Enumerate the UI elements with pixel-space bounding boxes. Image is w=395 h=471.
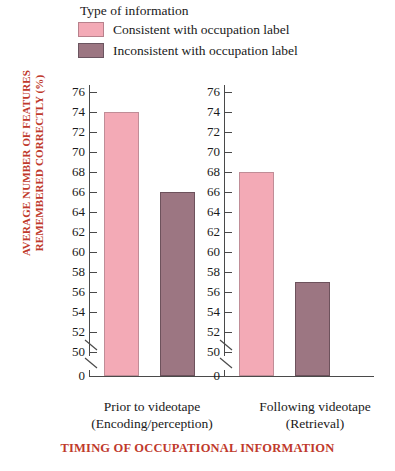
y-tick-label-wrap-54: 54 bbox=[89, 312, 90, 313]
y-tick-60 bbox=[225, 252, 232, 253]
bar-inconsistent-group-1 bbox=[295, 282, 330, 376]
y-tick-label-wrap-74: 74 bbox=[224, 112, 225, 113]
y-tick-76 bbox=[90, 92, 97, 93]
y-tick-66 bbox=[90, 192, 97, 193]
y-tick-label-66: 66 bbox=[72, 184, 85, 199]
axis-break-icon bbox=[82, 336, 100, 372]
x-group-label-prior: Prior to videotape (Encoding/perception) bbox=[72, 398, 232, 432]
y-tick-label-54: 54 bbox=[207, 304, 220, 319]
y-axis-title-line2: REMEMBERED CORRECTLY (%) bbox=[33, 38, 46, 288]
y-axis-line bbox=[224, 85, 225, 356]
y-tick-label-wrap-62: 62 bbox=[224, 232, 225, 233]
y-tick-label-wrap-62: 62 bbox=[89, 232, 90, 233]
legend-label-consistent: Consistent with occupation label bbox=[113, 22, 290, 37]
legend-label-inconsistent: Inconsistent with occupation label bbox=[113, 43, 298, 58]
x-group-label-prior-line2: (Encoding/perception) bbox=[72, 415, 232, 432]
y-tick-label-wrap-60: 60 bbox=[89, 252, 90, 253]
legend-item-consistent: Consistent with occupation label bbox=[78, 19, 368, 40]
y-tick-label-wrap-60: 60 bbox=[224, 252, 225, 253]
y-tick-label-70: 70 bbox=[207, 144, 220, 159]
y-tick-label-wrap-76: 76 bbox=[89, 92, 90, 93]
y-tick-label-72: 72 bbox=[72, 124, 85, 139]
y-zero-label-wrap: 0 bbox=[224, 376, 225, 377]
bar-consistent-group-1 bbox=[239, 172, 274, 376]
y-tick-label-54: 54 bbox=[72, 304, 85, 319]
y-tick-74 bbox=[90, 112, 97, 113]
y-tick-label-64: 64 bbox=[72, 204, 85, 219]
y-tick-label-wrap-76: 76 bbox=[224, 92, 225, 93]
y-tick-56 bbox=[90, 292, 97, 293]
y-tick-52 bbox=[90, 332, 97, 333]
chart-panel-following: 76747270686664626058565452500 bbox=[181, 78, 331, 388]
y-tick-label-wrap-66: 66 bbox=[89, 192, 90, 193]
y-tick-label-60: 60 bbox=[207, 244, 220, 259]
y-tick-label-74: 74 bbox=[72, 104, 85, 119]
y-axis-title: AVERAGE NUMBER OF FEATURES REMEMBERED CO… bbox=[20, 38, 46, 288]
y-tick-label-wrap-58: 58 bbox=[224, 272, 225, 273]
y-tick-label-wrap-66: 66 bbox=[224, 192, 225, 193]
y-tick-58 bbox=[90, 272, 97, 273]
y-tick-label-wrap-64: 64 bbox=[224, 212, 225, 213]
y-tick-label-76: 76 bbox=[72, 84, 85, 99]
y-tick-label-wrap-56: 56 bbox=[89, 292, 90, 293]
y-tick-label-wrap-56: 56 bbox=[224, 292, 225, 293]
y-axis-title-line1: AVERAGE NUMBER OF FEATURES bbox=[20, 38, 33, 288]
y-tick-label-wrap-68: 68 bbox=[89, 172, 90, 173]
x-group-label-prior-line1: Prior to videotape bbox=[72, 398, 232, 415]
y-tick-62 bbox=[225, 232, 232, 233]
y-tick-label-60: 60 bbox=[72, 244, 85, 259]
x-group-label-following-line1: Following videotape bbox=[235, 398, 395, 415]
y-tick-label-wrap-72: 72 bbox=[224, 132, 225, 133]
legend-title: Type of information bbox=[80, 2, 368, 19]
y-tick-62 bbox=[90, 232, 97, 233]
y-tick-label-wrap-68: 68 bbox=[224, 172, 225, 173]
y-tick-56 bbox=[225, 292, 232, 293]
y-tick-68 bbox=[90, 172, 97, 173]
y-tick-54 bbox=[225, 312, 232, 313]
y-tick-label-wrap-64: 64 bbox=[89, 212, 90, 213]
y-tick-label-wrap-70: 70 bbox=[224, 152, 225, 153]
legend-swatch-consistent-icon bbox=[78, 22, 104, 37]
y-tick-label-wrap-58: 58 bbox=[89, 272, 90, 273]
y-tick-76 bbox=[225, 92, 232, 93]
y-tick-label-64: 64 bbox=[207, 204, 220, 219]
y-tick-label-68: 68 bbox=[207, 164, 220, 179]
legend: Type of information Consistent with occu… bbox=[78, 2, 368, 61]
x-group-label-following-line2: (Retrieval) bbox=[235, 415, 395, 432]
x-axis-baseline bbox=[224, 376, 374, 377]
y-tick-52 bbox=[225, 332, 232, 333]
y-tick-label-62: 62 bbox=[72, 224, 85, 239]
y-tick-label-56: 56 bbox=[207, 284, 220, 299]
y-tick-label-wrap-52: 52 bbox=[89, 332, 90, 333]
y-tick-54 bbox=[90, 312, 97, 313]
axis-break-icon bbox=[217, 336, 235, 372]
y-zero-label-wrap: 0 bbox=[89, 376, 90, 377]
y-tick-72 bbox=[225, 132, 232, 133]
y-tick-label-58: 58 bbox=[207, 264, 220, 279]
bar-consistent-group-0 bbox=[104, 112, 139, 376]
y-tick-label-68: 68 bbox=[72, 164, 85, 179]
y-tick-label-74: 74 bbox=[207, 104, 220, 119]
legend-swatch-inconsistent-icon bbox=[78, 43, 104, 58]
legend-item-inconsistent: Inconsistent with occupation label bbox=[78, 40, 368, 61]
x-axis-title: TIMING OF OCCUPATIONAL INFORMATION bbox=[0, 441, 395, 456]
y-tick-70 bbox=[225, 152, 232, 153]
chart-plot-area: 76747270686664626058565452500 7674727068… bbox=[0, 78, 395, 388]
y-tick-70 bbox=[90, 152, 97, 153]
y-tick-label-72: 72 bbox=[207, 124, 220, 139]
y-tick-label-wrap-72: 72 bbox=[89, 132, 90, 133]
y-tick-74 bbox=[225, 112, 232, 113]
y-tick-label-wrap-52: 52 bbox=[224, 332, 225, 333]
chart-panel-prior: 76747270686664626058565452500 bbox=[46, 78, 196, 388]
y-tick-label-66: 66 bbox=[207, 184, 220, 199]
y-tick-60 bbox=[90, 252, 97, 253]
y-tick-label-wrap-74: 74 bbox=[89, 112, 90, 113]
y-tick-66 bbox=[225, 192, 232, 193]
x-group-label-following: Following videotape (Retrieval) bbox=[235, 398, 395, 432]
y-tick-label-56: 56 bbox=[72, 284, 85, 299]
y-tick-64 bbox=[225, 212, 232, 213]
y-tick-label-58: 58 bbox=[72, 264, 85, 279]
y-tick-label-wrap-54: 54 bbox=[224, 312, 225, 313]
y-tick-label-62: 62 bbox=[207, 224, 220, 239]
y-tick-58 bbox=[225, 272, 232, 273]
